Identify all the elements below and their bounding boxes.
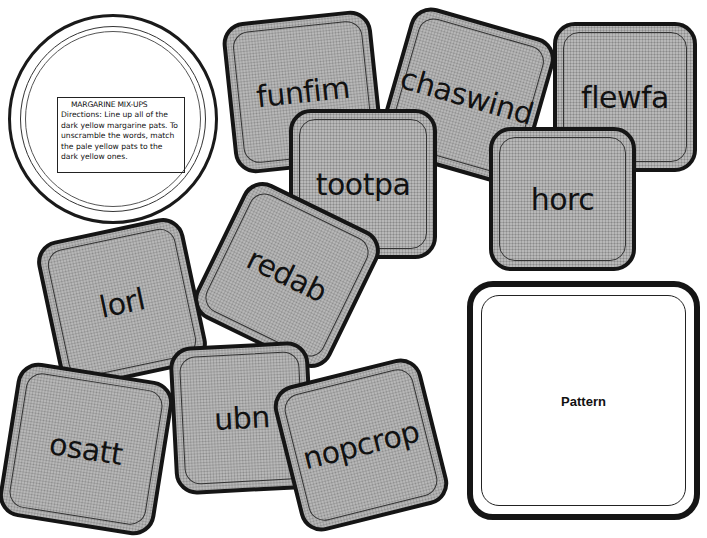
scrambled-word: tootpa bbox=[293, 167, 433, 202]
scrambled-word: flewfa bbox=[557, 80, 693, 115]
word-tile-osatt[interactable]: osatt bbox=[0, 360, 176, 538]
pattern-template-tile: Pattern bbox=[467, 281, 700, 520]
pattern-label: Pattern bbox=[473, 393, 694, 408]
scrambled-word: horc bbox=[493, 182, 632, 217]
directions-label-box: MARGARINE MIX-UPS Directions: Line up al… bbox=[57, 97, 185, 173]
word-tile-horc[interactable]: horc bbox=[489, 127, 636, 271]
directions-heading: Directions: bbox=[61, 110, 102, 119]
margarine-lid-directions: MARGARINE MIX-UPS Directions: Line up al… bbox=[8, 14, 218, 224]
lid-title: MARGARINE MIX-UPS bbox=[61, 100, 181, 110]
